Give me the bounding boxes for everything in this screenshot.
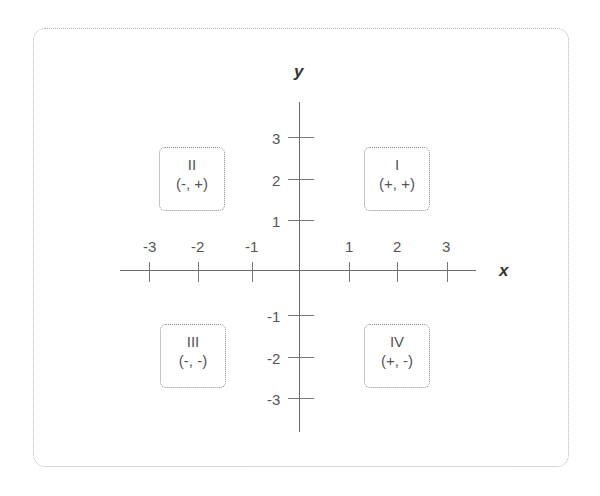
y-tick-label: -3 — [267, 392, 280, 407]
quadrant-numeral: II — [160, 156, 224, 174]
x-tick — [252, 262, 253, 282]
y-axis-line — [299, 102, 300, 432]
y-axis-label: y — [294, 62, 303, 82]
quadrant-i-box: I (+, +) — [364, 147, 430, 211]
x-axis-line — [120, 270, 476, 271]
y-tick — [288, 220, 314, 221]
quadrant-signs: (-, -) — [161, 351, 225, 371]
y-tick-label: 2 — [272, 173, 280, 188]
x-tick — [198, 262, 199, 282]
y-tick-label: -2 — [267, 351, 280, 366]
quadrant-numeral: I — [365, 156, 429, 174]
quadrant-numeral: III — [161, 333, 225, 351]
quadrant-ii-box: II (-, +) — [159, 147, 225, 211]
y-tick — [288, 398, 314, 399]
y-tick — [288, 357, 314, 358]
x-tick-label: 1 — [345, 239, 353, 254]
quadrant-iv-box: IV (+, -) — [364, 324, 430, 388]
y-tick-label: 1 — [272, 214, 280, 229]
quadrant-iii-box: III (-, -) — [160, 324, 226, 388]
y-tick — [288, 179, 314, 180]
x-tick — [397, 262, 398, 282]
x-axis-label: x — [499, 261, 508, 281]
y-tick-label: 3 — [272, 131, 280, 146]
x-tick-label: 3 — [442, 239, 450, 254]
y-tick — [288, 137, 314, 138]
quadrant-signs: (-, +) — [160, 174, 224, 194]
x-tick — [349, 262, 350, 282]
x-tick — [447, 262, 448, 282]
y-tick-label: -1 — [267, 309, 280, 324]
quadrant-signs: (+, +) — [365, 174, 429, 194]
x-tick-label: -3 — [143, 239, 156, 254]
x-tick-label: 2 — [393, 239, 401, 254]
x-tick — [149, 262, 150, 282]
x-tick-label: -1 — [245, 239, 258, 254]
y-tick — [288, 315, 314, 316]
quadrant-numeral: IV — [365, 333, 429, 351]
x-tick-label: -2 — [191, 239, 204, 254]
quadrant-signs: (+, -) — [365, 351, 429, 371]
diagram-frame — [33, 28, 569, 467]
